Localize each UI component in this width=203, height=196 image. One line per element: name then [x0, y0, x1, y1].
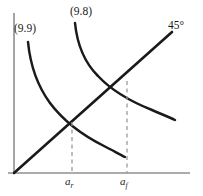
x-axis-tick-label-ar: ar [65, 176, 73, 187]
curve-label-98: (9.8) [70, 6, 92, 18]
tick-ar-subscript: r [71, 181, 74, 190]
tick-ar-base: a [65, 175, 71, 187]
curve-99 [28, 42, 125, 157]
curve-label-99: (9.9) [14, 23, 36, 35]
figure-container: (9.9) (9.8) 45° ar af [0, 0, 203, 196]
x-axis-tick-label-af: af [120, 176, 128, 187]
tick-af-subscript: f [126, 181, 128, 190]
diagonal-45-label: 45° [168, 20, 184, 32]
dashed-droplines-group [72, 81, 127, 173]
tick-af-base: a [120, 175, 126, 187]
axes-group [8, 13, 190, 174]
diagonal-45-line [14, 32, 172, 173]
